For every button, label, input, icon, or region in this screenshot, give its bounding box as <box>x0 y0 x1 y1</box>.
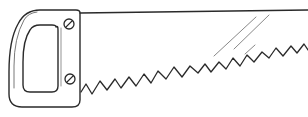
blade-highlights <box>214 15 269 56</box>
saw-drawing <box>0 0 308 117</box>
screw-bottom-icon <box>65 74 75 84</box>
handle-edge-line <box>14 12 37 88</box>
blade-teeth <box>81 44 308 94</box>
saw-illustration: hand saw line drawing <box>0 0 308 117</box>
blade-top-edge <box>80 10 308 13</box>
screw-top-icon <box>64 19 74 29</box>
grip-hole <box>23 25 58 92</box>
